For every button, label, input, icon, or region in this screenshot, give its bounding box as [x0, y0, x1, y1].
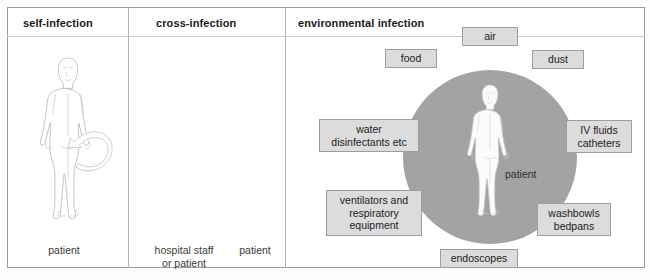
label-center-patient: patient	[505, 168, 537, 180]
source-box-dust[interactable]: dust	[532, 50, 584, 69]
source-box-washbowls-bedpans[interactable]: washbowls bedpans	[537, 203, 611, 236]
infection-routes-diagram: self-infection cross-infection environme…	[0, 0, 650, 280]
source-box-ventilators-respiratory-equipment[interactable]: ventilators and respiratory equipment	[326, 190, 422, 236]
source-box-water-disinfectants[interactable]: water disinfectants etc	[319, 119, 419, 152]
source-box-food[interactable]: food	[385, 49, 437, 68]
source-box-iv-fluids-catheters[interactable]: IV fluids catheters	[566, 120, 632, 153]
source-box-endoscopes[interactable]: endoscopes	[440, 249, 518, 268]
source-box-air[interactable]: air	[462, 27, 518, 46]
